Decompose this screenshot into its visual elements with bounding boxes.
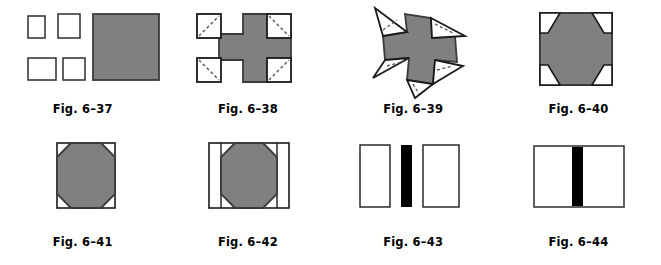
- figure-cell-6-40: Fig. 6–40: [496, 0, 661, 133]
- figure-caption-6-38: Fig. 6–38: [218, 102, 278, 116]
- figure-plate: Fig. 6–37 Fig. 6–38: [0, 0, 661, 265]
- corner-square-bottom-left: [197, 58, 221, 82]
- figure-caption-6-40: Fig. 6–40: [548, 102, 608, 116]
- figure-cell-6-43: Fig. 6–43: [331, 133, 496, 265]
- gray-octagon: [221, 143, 277, 208]
- corner-square-bottom-right: [267, 58, 291, 82]
- small-square-bottom-left: [28, 58, 56, 80]
- figure-art-6-41: [0, 133, 165, 233]
- small-square-top-left: [28, 16, 45, 38]
- small-square-bottom-right: [63, 58, 85, 80]
- figure-caption-6-39: Fig. 6–39: [383, 102, 443, 116]
- figure-caption-6-37: Fig. 6–37: [53, 102, 113, 116]
- gray-octagon: [57, 143, 115, 208]
- corner-square-top-right: [267, 14, 291, 38]
- folded-triangle-top-right: [431, 18, 465, 38]
- figure-caption-6-42: Fig. 6–42: [218, 235, 278, 249]
- figure-art-6-43: [331, 133, 496, 233]
- figure-cell-6-41: Fig. 6–41: [0, 133, 165, 265]
- figure-caption-6-41: Fig. 6–41: [53, 235, 113, 249]
- black-vertical-bar: [572, 147, 583, 206]
- folded-triangle-bottom-right: [433, 60, 463, 84]
- black-vertical-bar: [401, 145, 412, 207]
- folded-triangle-top-left: [375, 8, 407, 36]
- right-white-rectangle: [423, 145, 459, 207]
- figure-art-6-44: [496, 133, 661, 233]
- figure-art-6-37: [0, 0, 165, 100]
- figure-art-6-39: [331, 0, 496, 100]
- large-gray-square: [93, 14, 159, 80]
- figure-cell-6-37: Fig. 6–37: [0, 0, 165, 133]
- folded-triangle-lower-center: [407, 80, 433, 98]
- figure-cell-6-38: Fig. 6–38: [165, 0, 330, 133]
- figure-art-6-40: [496, 0, 661, 100]
- corner-square-top-left: [197, 14, 221, 38]
- figure-caption-6-44: Fig. 6–44: [548, 235, 608, 249]
- folded-triangle-bottom-left: [373, 58, 409, 78]
- small-square-top-right: [58, 14, 80, 38]
- figure-art-6-42: [165, 133, 330, 233]
- figure-cell-6-42: Fig. 6–42: [165, 133, 330, 265]
- figure-cell-6-44: Fig. 6–44: [496, 133, 661, 265]
- figure-art-6-38: [165, 0, 330, 100]
- figure-caption-6-43: Fig. 6–43: [383, 235, 443, 249]
- left-white-rectangle: [360, 145, 390, 207]
- figure-cell-6-39: Fig. 6–39: [331, 0, 496, 133]
